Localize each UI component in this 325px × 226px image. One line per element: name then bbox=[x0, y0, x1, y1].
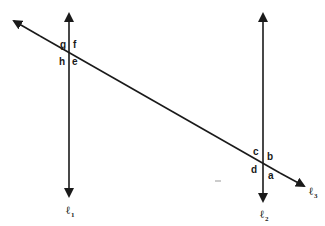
parallel-lines-diagram: g f h e c b d a ℓ 1 ℓ 2 ℓ 3 bbox=[0, 0, 325, 226]
angle-label-g: g bbox=[60, 39, 66, 50]
label-l1: ℓ 1 bbox=[66, 204, 75, 219]
angle-label-e: e bbox=[72, 56, 78, 67]
angle-label-d: d bbox=[251, 164, 257, 175]
angle-label-c: c bbox=[253, 146, 259, 157]
angle-label-b: b bbox=[267, 151, 273, 162]
transversal-l3 bbox=[14, 21, 304, 186]
angle-label-h: h bbox=[59, 56, 65, 67]
svg-text:1: 1 bbox=[71, 211, 75, 219]
label-l2: ℓ 2 bbox=[260, 208, 269, 223]
label-l3: ℓ 3 bbox=[309, 185, 318, 200]
svg-text:2: 2 bbox=[265, 215, 269, 223]
angle-label-a: a bbox=[268, 170, 274, 181]
svg-text:3: 3 bbox=[314, 192, 318, 200]
angle-label-f: f bbox=[73, 39, 77, 50]
